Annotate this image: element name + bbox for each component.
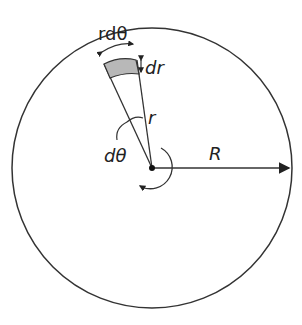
label-r: r [148,107,157,128]
origin-dot [149,165,155,171]
angle-arc-outer [117,122,127,140]
label-dtheta: dθ [104,145,126,166]
label-dr: dr [145,57,165,78]
label-rdtheta: rdθ [98,23,128,44]
label-R: R [209,143,222,164]
polar-area-element-diagram: rdθ dr r dθ R [0,0,302,325]
area-element [104,59,139,78]
arc-length-arrow [102,44,133,52]
